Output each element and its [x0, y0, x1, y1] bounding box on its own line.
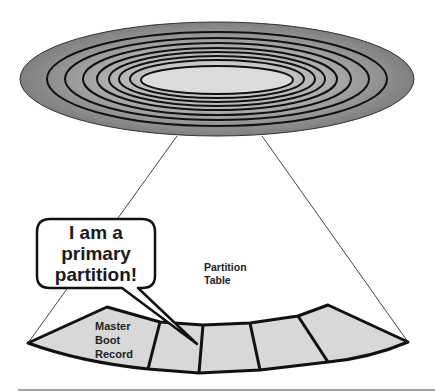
master-boot-record-label: Master Boot Record — [95, 319, 133, 361]
disk-platter — [20, 22, 414, 136]
partition-table-label: Partition Table — [204, 261, 247, 287]
partition-table-line-2: Table — [204, 274, 247, 287]
bubble-line-2: primary — [36, 243, 156, 264]
bubble-line-3: partition! — [36, 264, 156, 285]
diagram-canvas — [0, 0, 435, 392]
disk-sector — [28, 305, 408, 373]
bubble-line-1: I am a — [36, 222, 156, 243]
mbr-line-2: Boot — [95, 333, 133, 347]
mbr-line-3: Record — [95, 347, 133, 361]
mbr-line-1: Master — [95, 319, 133, 333]
speech-bubble-text: I am a primary partition! — [36, 222, 156, 285]
partition-table-line-1: Partition — [204, 261, 247, 274]
